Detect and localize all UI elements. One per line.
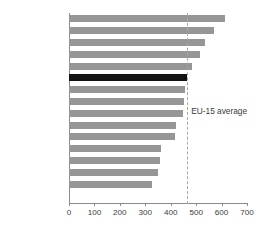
x-tick-mark (196, 203, 197, 206)
bar-row: Italy (69, 25, 247, 37)
x-tick-mark (171, 203, 172, 206)
bar-row: Finland (69, 131, 247, 143)
bar-portugal (69, 145, 161, 152)
x-tick-mark (247, 203, 248, 206)
eu-15-average-line (187, 13, 188, 204)
x-axis-line (69, 203, 247, 204)
bar-row: France (69, 60, 247, 72)
eu-15-average-label: EU-15 average (191, 106, 247, 116)
bar-united-kingdom (69, 74, 187, 81)
bar-greece (69, 181, 152, 188)
bar-chart: LuxembourgItalyGermanyAustriaFranceUnite… (0, 0, 262, 239)
x-tick-mark (94, 203, 95, 206)
x-tick-mark (120, 203, 121, 206)
bar-row: Netherlands (69, 119, 247, 131)
bar-row: Ireland (69, 155, 247, 167)
bar-sweden (69, 98, 184, 105)
bar-row: Portugal (69, 143, 247, 155)
bar-belgium (69, 86, 185, 93)
bar-ireland (69, 157, 160, 164)
bar-row: Luxembourg (69, 13, 247, 25)
bar-austria (69, 51, 200, 58)
x-tick-mark (222, 203, 223, 206)
bar-row: Greece (69, 178, 247, 190)
bar-germany (69, 39, 205, 46)
bar-netherlands (69, 122, 176, 129)
bar-row: Belgium (69, 84, 247, 96)
bar-france (69, 63, 192, 70)
bar-italy (69, 27, 214, 34)
bar-denmark (69, 169, 158, 176)
bar-row: United Kingdom (69, 72, 247, 84)
bar-row: Austria (69, 48, 247, 60)
bar-luxembourg (69, 15, 225, 22)
x-tick-label: 700 (232, 208, 262, 217)
bar-row: Germany (69, 37, 247, 49)
x-tick-mark (145, 203, 146, 206)
bar-row: Denmark (69, 166, 247, 178)
bar-finland (69, 133, 175, 140)
x-tick-mark (69, 203, 70, 206)
bar-spain (69, 110, 183, 117)
